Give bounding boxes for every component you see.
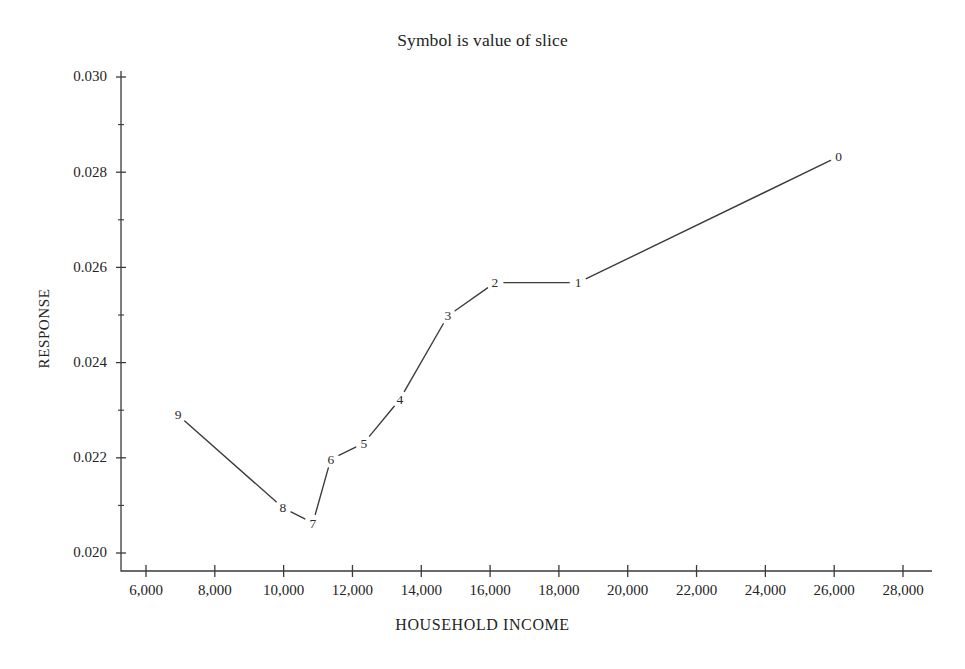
x-tick-label: 8,000	[198, 582, 232, 598]
series-segment	[586, 160, 830, 278]
series-segment	[455, 288, 487, 311]
x-tick-label: 22,000	[676, 582, 717, 598]
data-point-labels: 9876543210	[175, 149, 843, 531]
y-tick-label: 0.028	[73, 164, 107, 180]
x-tick-label: 10,000	[263, 582, 304, 598]
series-segment	[404, 324, 443, 392]
y-tick-label: 0.030	[73, 68, 107, 84]
axes	[121, 71, 932, 571]
data-series	[185, 160, 831, 519]
y-tick-label: 0.024	[73, 354, 107, 370]
x-tick-label: 18,000	[538, 582, 579, 598]
series-segment	[339, 447, 356, 455]
series-segment	[185, 421, 276, 502]
data-point-label: 8	[280, 500, 287, 515]
y-tick-label: 0.026	[73, 259, 107, 275]
data-point-label: 3	[444, 308, 451, 323]
series-segment	[291, 512, 305, 519]
data-point-label: 6	[327, 452, 334, 467]
data-point-label: 7	[310, 516, 317, 531]
data-point-label: 4	[397, 392, 404, 407]
axis-tick-labels: 0.0200.0220.0240.0260.0280.0306,0008,000…	[73, 68, 923, 598]
data-point-label: 9	[175, 407, 182, 422]
series-segment	[315, 468, 328, 514]
chart-figure: Symbol is value of slice RESPONSE HOUSEH…	[0, 0, 965, 669]
y-tick-label: 0.020	[73, 544, 107, 560]
x-tick-label: 14,000	[401, 582, 442, 598]
x-tick-label: 28,000	[882, 582, 923, 598]
x-tick-label: 24,000	[745, 582, 786, 598]
data-point-label: 5	[360, 436, 367, 451]
x-tick-label: 12,000	[332, 582, 373, 598]
x-tick-label: 26,000	[814, 582, 855, 598]
x-tick-label: 20,000	[607, 582, 648, 598]
axis-ticks	[116, 77, 903, 577]
data-point-label: 0	[835, 149, 842, 164]
plot-area: 0.0200.0220.0240.0260.0280.0306,0008,000…	[0, 0, 965, 669]
axis-lines	[121, 71, 932, 571]
x-tick-label: 16,000	[469, 582, 510, 598]
x-tick-label: 6,000	[129, 582, 163, 598]
series-segment	[370, 406, 395, 436]
y-tick-label: 0.022	[73, 449, 107, 465]
data-point-label: 2	[492, 275, 499, 290]
data-point-label: 1	[575, 275, 582, 290]
